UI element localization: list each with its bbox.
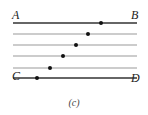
figure-caption: (c) (68, 97, 80, 109)
label-a: A (11, 8, 20, 22)
lines-group (13, 23, 137, 78)
dots-group (35, 21, 103, 80)
label-b: B (131, 8, 139, 22)
point-marker-4 (61, 54, 65, 58)
point-marker-5 (48, 66, 52, 70)
point-marker-1 (99, 21, 103, 25)
parallel-lines-diagram: A B C D (c) (0, 0, 148, 115)
label-c: C (12, 69, 21, 83)
label-d: D (130, 71, 140, 85)
point-marker-3 (74, 43, 78, 47)
point-marker-6 (35, 76, 39, 80)
point-marker-2 (86, 32, 90, 36)
